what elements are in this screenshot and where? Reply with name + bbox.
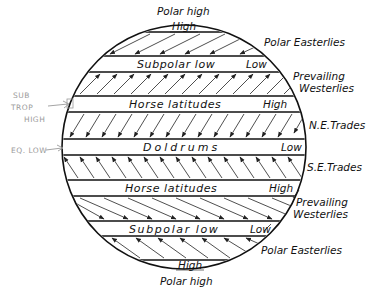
south-westerlies-label-line2: Westerlies (293, 208, 349, 220)
top-polar-high-label: Polar high (157, 5, 210, 17)
north-horse-latitudes-label: Horse latitudes (129, 98, 221, 111)
north-westerlies-arrows (80, 74, 298, 94)
south-horse-latitudes-tag: High (269, 182, 293, 194)
doldrums-tag: Low (281, 141, 302, 153)
south-polar-high-tag: High (178, 259, 202, 271)
north-polar-easterlies-arrows (110, 34, 268, 54)
bottom-polar-high-label: Polar high (160, 275, 213, 287)
sub-trop-high-note-line1: SUB (13, 91, 30, 100)
sub-trop-high-note-line2: TROP (10, 103, 33, 112)
se-trades-arrows (64, 157, 302, 178)
south-westerlies-arrows (70, 198, 296, 219)
south-horse-latitudes-label: Horse latitudes (125, 182, 217, 195)
south-subpolar-low-tag: Low (250, 223, 271, 235)
doldrums-label: Doldrums (143, 141, 220, 154)
eq-low-note: EQ. LOW (11, 146, 47, 155)
sub-trop-high-arrow-icon (48, 101, 69, 108)
south-subpolar-low-label: Subpolar low (129, 223, 219, 236)
ne-trades-label: N.E.Trades (309, 119, 366, 131)
south-westerlies-label-line1: Prevailing (296, 196, 348, 208)
south-polar-easterlies-label: Polar Easterlies (261, 244, 342, 256)
handwritten-notes: SUB TROP HIGH EQ. LOW (10, 91, 73, 155)
wind-belts-diagram: Polar high (0, 0, 372, 290)
north-horse-latitudes-tag: High (263, 98, 287, 110)
north-subpolar-low-label: Subpolar low (137, 58, 215, 71)
north-westerlies-label-line1: Prevailing (293, 70, 345, 82)
se-trades-label: S.E.Trades (307, 161, 362, 173)
sub-trop-high-note-line3: HIGH (24, 115, 45, 124)
north-westerlies-label-line2: Westerlies (299, 82, 355, 94)
north-polar-high-tag: High (172, 20, 196, 32)
eq-low-arrow-icon (46, 145, 63, 151)
north-polar-easterlies-label: Polar Easterlies (264, 36, 345, 48)
ne-trades-arrows (70, 114, 305, 137)
north-subpolar-low-tag: Low (246, 58, 267, 70)
